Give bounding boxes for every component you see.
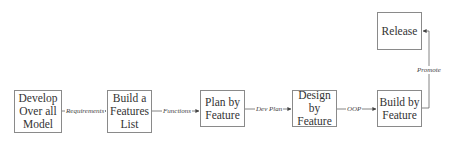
node-design-by-feature: Design by Feature	[292, 90, 337, 127]
edge-label-functions: Functions	[162, 107, 192, 115]
node-plan-by-feature: Plan by Feature	[200, 90, 245, 127]
node-build-features-list: Build a Features List	[107, 90, 152, 133]
node-develop-overall-model: Develop Over all Model	[14, 90, 62, 133]
edge-label-oop: OOP	[346, 105, 362, 113]
edge-label-dev-plan: Dev Plan	[255, 105, 283, 113]
node-release: Release	[377, 12, 422, 50]
node-build-by-feature: Build by Feature	[377, 90, 422, 127]
edge-label-promote: Promote	[416, 66, 442, 74]
edge-label-requirements: Requirements	[65, 107, 105, 115]
